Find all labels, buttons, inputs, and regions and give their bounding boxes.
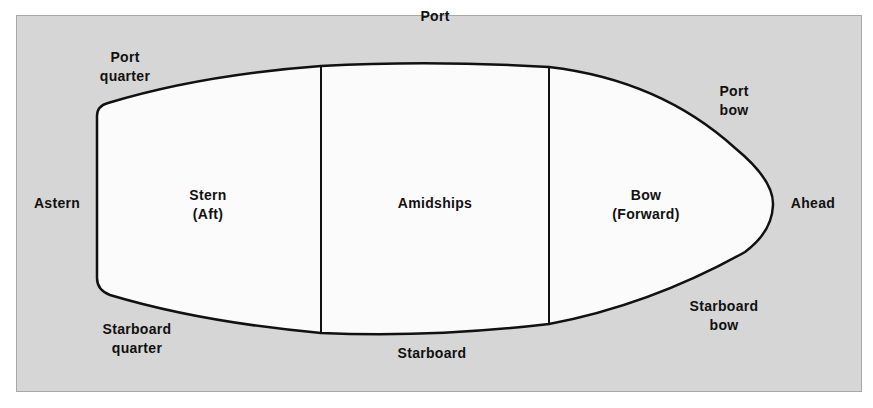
- label-starboard-quarter: Starboard quarter: [103, 320, 172, 358]
- label-astern: Astern: [34, 194, 80, 213]
- label-starboard: Starboard: [398, 344, 467, 363]
- label-port-quarter: Port quarter: [100, 48, 150, 86]
- label-port-bow: Port bow: [719, 82, 748, 120]
- section-amidships: Amidships: [398, 194, 472, 213]
- label-ahead: Ahead: [791, 194, 835, 213]
- label-starboard-bow: Starboard bow: [690, 297, 759, 335]
- label-port: Port: [420, 7, 449, 26]
- section-stern: Stern (Aft): [189, 186, 226, 224]
- section-bow: Bow (Forward): [612, 186, 679, 224]
